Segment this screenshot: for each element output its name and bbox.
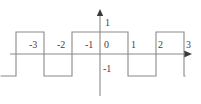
arrow-right-icon	[184, 51, 192, 58]
plot-canvas	[0, 0, 201, 104]
x-tick-label-1: 1	[131, 40, 136, 50]
x-tick-label-minus-1: -1	[85, 40, 93, 50]
y-tick-label-minus-1: -1	[103, 64, 111, 74]
x-tick-label-3: 3	[186, 40, 191, 50]
axes-group	[10, 9, 192, 96]
x-tick-label-minus-3: -3	[29, 40, 37, 50]
x-tick-label-0: 0	[104, 40, 109, 50]
arrow-up-icon	[97, 9, 103, 16]
x-tick-label-minus-2: -2	[57, 40, 65, 50]
y-tick-label-1: 1	[105, 18, 110, 28]
square-wave-figure: -3 -2 -1 0 1 2 3 1 -1	[0, 0, 201, 104]
x-tick-label-2: 2	[158, 40, 163, 50]
